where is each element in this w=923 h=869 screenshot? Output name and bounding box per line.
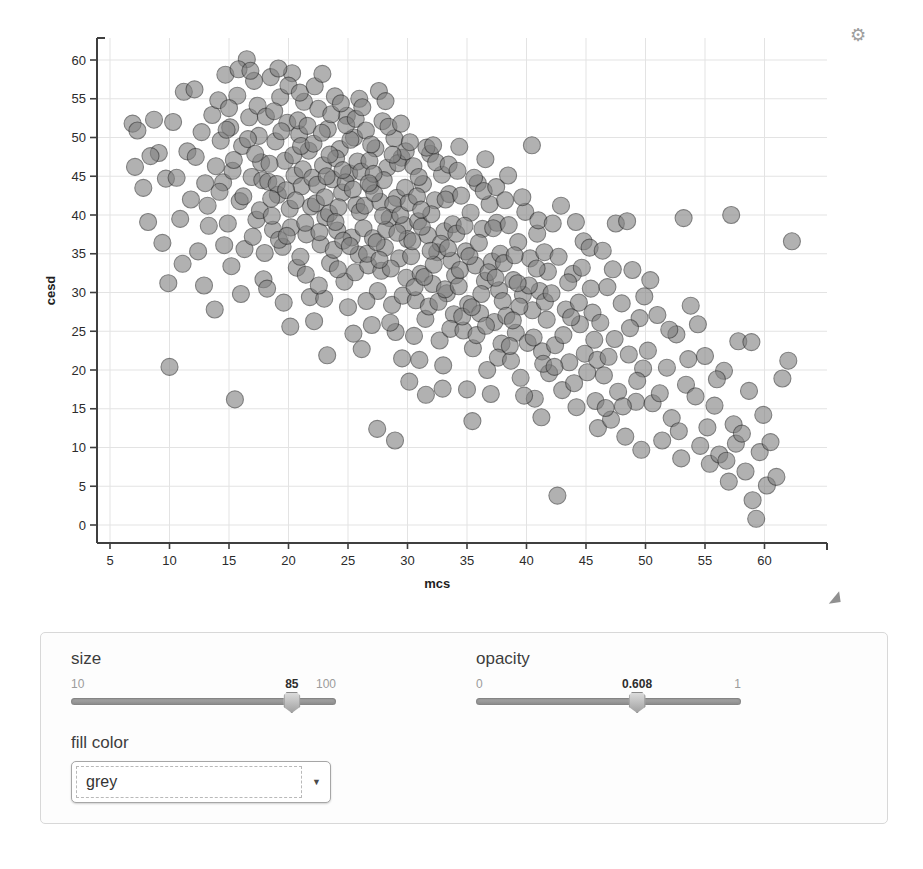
x-tick-label: 5 [106, 553, 113, 568]
x-tick-label: 55 [698, 553, 712, 568]
size-slider[interactable]: 10 85 100 [71, 677, 336, 723]
x-tick-label: 50 [638, 553, 652, 568]
x-tick-label: 15 [222, 553, 236, 568]
slider-min-label: 0 [476, 677, 483, 691]
y-axis-title: cesd [43, 276, 58, 306]
chevron-down-icon: ▼ [312, 777, 321, 787]
y-tick-label: 50 [72, 130, 86, 145]
slider-value-label: 0.608 [622, 677, 652, 691]
y-tick-label: 5 [79, 479, 86, 494]
y-tick-label: 0 [79, 518, 86, 533]
x-tick-label: 25 [341, 553, 355, 568]
x-tick-label: 30 [400, 553, 414, 568]
y-tick-label: 40 [72, 208, 86, 223]
y-tick-label: 55 [72, 91, 86, 106]
y-tick-label: 10 [72, 440, 86, 455]
slider-track[interactable] [476, 698, 741, 705]
opacity-slider[interactable]: 0 0.608 1 [476, 677, 741, 723]
slider-value-label: 85 [285, 677, 298, 691]
x-tick-label: 10 [162, 553, 176, 568]
y-tick-label: 20 [72, 363, 86, 378]
x-tick-label: 20 [281, 553, 295, 568]
fill-color-label: fill color [71, 733, 331, 753]
opacity-control: opacity 0 0.608 1 [476, 649, 741, 723]
fill-color-control: fill color grey ▼ [71, 733, 331, 803]
size-label: size [71, 649, 336, 669]
fill-color-select[interactable]: grey ▼ [71, 761, 331, 803]
controls-panel: size 10 85 100 opacity 0 0.608 1 fill co… [40, 632, 888, 824]
x-tick-label: 60 [757, 553, 771, 568]
ggvis-app: ⚙︎ 5101520253035404550556005101520253035… [0, 0, 923, 869]
x-tick-label: 35 [460, 553, 474, 568]
slider-min-label: 10 [71, 677, 84, 691]
y-tick-label: 35 [72, 246, 86, 261]
slider-max-label: 1 [734, 677, 741, 691]
x-tick-label: 45 [579, 553, 593, 568]
y-tick-label: 15 [72, 401, 86, 416]
y-tick-label: 25 [72, 324, 86, 339]
x-axis-title: mcs [424, 576, 450, 591]
fill-color-selected-value: grey [76, 766, 302, 798]
x-tick-label: 40 [519, 553, 533, 568]
y-tick-label: 60 [72, 53, 86, 68]
scatter-plot: 5101520253035404550556005101520253035404… [30, 25, 880, 615]
scatter-plot-area: ⚙︎ 5101520253035404550556005101520253035… [0, 0, 923, 620]
resize-handle-icon[interactable] [826, 590, 842, 604]
slider-max-label: 100 [316, 677, 336, 691]
y-tick-label: 45 [72, 169, 86, 184]
slider-handle[interactable] [283, 692, 300, 713]
data-points [124, 51, 800, 528]
slider-handle[interactable] [629, 692, 646, 713]
opacity-label: opacity [476, 649, 741, 669]
size-control: size 10 85 100 [71, 649, 336, 723]
y-tick-label: 30 [72, 285, 86, 300]
